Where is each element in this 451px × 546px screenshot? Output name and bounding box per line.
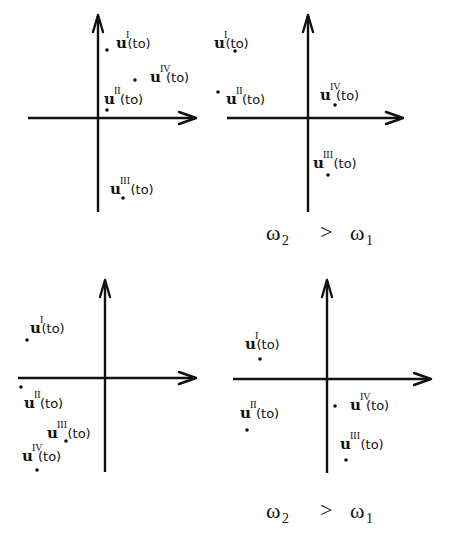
omega-1-subscript: 1 (366, 511, 373, 526)
point-u-i: uI(to) (25, 314, 65, 342)
point-marker (333, 404, 337, 408)
point-label-arg: (to) (242, 92, 265, 107)
point-marker (245, 428, 249, 432)
point-label-arg: (to) (120, 92, 143, 107)
point-marker (344, 458, 348, 462)
phase-diagram-canvas: uI(to)uIV(to)uII(to)uIII(to)uI(to)uII(to… (0, 0, 451, 546)
point-u-iii: uIII(to) (340, 430, 384, 462)
omega-1-subscript: 1 (366, 233, 373, 248)
point-label-arg: (to) (366, 398, 389, 413)
point-label-superscript: III (323, 149, 333, 160)
omega-1-symbol: ω (350, 498, 364, 523)
point-label-arg: (to) (361, 437, 384, 452)
point-label-superscript: III (350, 430, 360, 441)
point-u-iv: uIV(to) (333, 391, 389, 414)
point-label-superscript: III (120, 175, 130, 186)
omega-2-subscript: 2 (282, 233, 289, 248)
panel-bottom-left: uI(to)uII(to)uIII(to)uIV(to) (18, 280, 196, 472)
omega-2-subscript: 2 (282, 511, 289, 526)
point-u-i: uI(to) (245, 330, 280, 361)
point-marker (25, 338, 29, 342)
point-u-iv: uIV(to) (133, 63, 189, 86)
point-marker (133, 78, 137, 82)
point-u-ii: uII(to) (19, 385, 63, 412)
point-marker (105, 108, 109, 112)
panel-top-left: uI(to)uIV(to)uII(to)uIII(to) (28, 15, 196, 212)
point-label-arg: (to) (256, 406, 279, 421)
point-label-arg: (to) (226, 36, 249, 51)
point-u-ii: uII(to) (216, 85, 265, 108)
point-label-arg: (to) (334, 156, 357, 171)
point-marker (19, 385, 23, 389)
point-u-iii: uIII(to) (313, 149, 357, 177)
omega-2-symbol: ω (266, 498, 280, 523)
point-u-iii: uIII(to) (47, 419, 91, 443)
omega-1-symbol: ω (350, 220, 364, 245)
point-marker (326, 173, 330, 177)
point-marker (333, 103, 337, 107)
point-u-i: uI(to) (214, 29, 249, 53)
omega-2-symbol: ω (266, 220, 280, 245)
point-u-iv: uIV(to) (320, 81, 359, 107)
caption-bottom: ω2>ω1 (266, 497, 373, 526)
panel-bottom-right: uI(to)uII(to)uIV(to)uIII(to) (233, 280, 431, 473)
point-u-ii: uII(to) (240, 399, 279, 432)
point-label-arg: (to) (40, 396, 63, 411)
point-label-arg: (to) (166, 70, 189, 85)
point-marker (121, 196, 125, 200)
panel-top-right: uI(to)uII(to)uIV(to)uIII(to) (214, 15, 403, 212)
point-label-superscript: III (57, 419, 67, 430)
point-label-arg: (to) (257, 337, 280, 352)
point-label-arg: (to) (131, 182, 154, 197)
point-label-arg: (to) (42, 321, 65, 336)
point-label-arg: (to) (38, 449, 61, 464)
point-label-arg: (to) (336, 88, 359, 103)
greater-than-symbol: > (320, 497, 332, 522)
point-u-iv: uIV(to) (22, 442, 61, 472)
point-u-i: uI(to) (105, 29, 151, 52)
point-u-ii: uII(to) (104, 85, 143, 112)
point-label-arg: (to) (68, 426, 91, 441)
point-label-arg: (to) (128, 36, 151, 51)
caption-top: ω2>ω1 (266, 219, 373, 248)
point-marker (105, 48, 109, 52)
greater-than-symbol: > (320, 219, 332, 244)
point-marker (216, 90, 220, 94)
point-marker (258, 357, 262, 361)
point-u-iii: uIII(to) (110, 175, 154, 200)
point-marker (35, 468, 39, 472)
